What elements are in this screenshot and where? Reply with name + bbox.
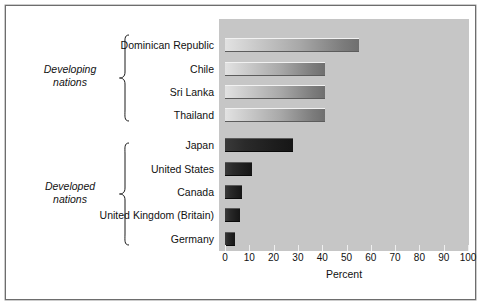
- x-axis-tick-40: [322, 245, 323, 251]
- x-axis-tick-label-40: 40: [317, 252, 328, 263]
- x-axis-tick-label-60: 60: [365, 252, 376, 263]
- x-axis-tick-50: [347, 245, 348, 251]
- x-axis-tick-80: [419, 245, 420, 251]
- category-label-canada: Canada: [9, 186, 219, 199]
- x-axis-tick-label-50: 50: [341, 252, 352, 263]
- x-axis-tick-30: [298, 245, 299, 251]
- x-axis-tick-label-20: 20: [268, 252, 279, 263]
- bar-united-states: [225, 162, 252, 176]
- x-axis-tick-100: [468, 245, 469, 251]
- bar-dominican-republic: [225, 38, 359, 52]
- bar-chile: [225, 62, 325, 76]
- x-axis-tick-label-10: 10: [244, 252, 255, 263]
- bar-germany: [225, 232, 235, 246]
- category-label-united-states: United States: [9, 163, 219, 176]
- category-label-dominican-republic: Dominican Republic: [9, 39, 219, 52]
- bar-japan: [225, 138, 293, 152]
- category-label-thailand: Thailand: [9, 109, 219, 122]
- category-label-sri-lanka: Sri Lanka: [9, 86, 219, 99]
- plot-area: [219, 19, 469, 251]
- x-axis-tick-label-100: 100: [460, 252, 477, 263]
- x-axis-tick-label-70: 70: [390, 252, 401, 263]
- x-axis-tick-label-0: 0: [222, 252, 228, 263]
- x-axis-tick-20: [274, 245, 275, 251]
- x-axis-tick-70: [395, 245, 396, 251]
- category-label-germany: Germany: [9, 233, 219, 246]
- bar-thailand: [225, 108, 325, 122]
- x-axis-tick-10: [249, 245, 250, 251]
- category-label-united-kingdom-britain: United Kingdom (Britain): [9, 209, 219, 222]
- chart-figure: Developing nations Developed nations Dom…: [5, 5, 476, 300]
- x-axis-tick-60: [371, 245, 372, 251]
- bar-united-kingdom-britain: [225, 208, 240, 222]
- category-label-japan: Japan: [9, 139, 219, 152]
- category-axis-labels: Dominican RepublicChileSri LankaThailand…: [6, 6, 219, 299]
- bars-container: [219, 19, 469, 251]
- x-axis-tick-label-80: 80: [414, 252, 425, 263]
- x-axis-tick-label-30: 30: [292, 252, 303, 263]
- x-axis: Percent 0102030405060708090100: [219, 251, 469, 296]
- x-axis-title: Percent: [219, 268, 469, 280]
- bar-canada: [225, 185, 242, 199]
- x-axis-tick-0: [225, 245, 226, 251]
- x-axis-tick-label-90: 90: [438, 252, 449, 263]
- bar-sri-lanka: [225, 85, 325, 99]
- category-label-chile: Chile: [9, 63, 219, 76]
- x-axis-tick-90: [444, 245, 445, 251]
